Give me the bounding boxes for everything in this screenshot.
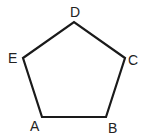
vertex-label-b: B xyxy=(108,120,117,136)
vertex-label-a: A xyxy=(30,118,40,134)
vertex-label-c: C xyxy=(128,52,138,68)
vertex-label-d: D xyxy=(70,4,80,20)
vertex-label-e: E xyxy=(8,50,17,66)
pentagon-shape xyxy=(23,22,125,117)
pentagon-diagram: A B C D E xyxy=(0,0,144,137)
